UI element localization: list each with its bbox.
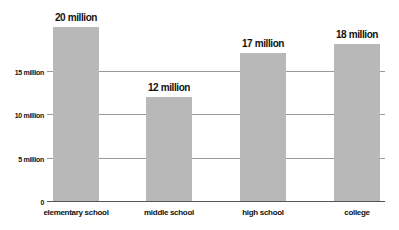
bar-chart: 05 million10 million15 million 20 millio… [0,0,399,230]
value-label: 20 million [55,12,97,23]
x-category-label: high school [242,208,284,217]
bar-high-school [240,53,286,201]
y-tick-label: 5 million [18,156,44,163]
value-label: 17 million [242,38,284,49]
bar-college [334,44,380,201]
x-category-label: elementary school [43,208,108,217]
x-category-label: college [344,208,369,217]
value-label: 18 million [336,29,378,40]
y-tick-label: 10 million [15,112,44,119]
x-category-label: middle school [144,208,194,217]
bar-middle-school [146,97,192,201]
y-tick-label: 15 million [15,69,44,76]
value-label: 12 million [148,82,190,93]
y-tick-label: 0 [40,199,44,206]
bar-elementary-school [53,27,99,201]
gridline [47,201,385,202]
